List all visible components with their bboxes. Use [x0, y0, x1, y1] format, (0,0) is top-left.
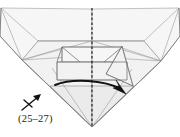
central-flap-structure	[57, 46, 133, 86]
repeat-steps-symbol	[22, 94, 41, 110]
step-reference-caption: (25–27)	[18, 113, 53, 124]
flap-panel-left-lower	[57, 62, 92, 80]
origami-figure: (25–27)	[0, 0, 180, 137]
